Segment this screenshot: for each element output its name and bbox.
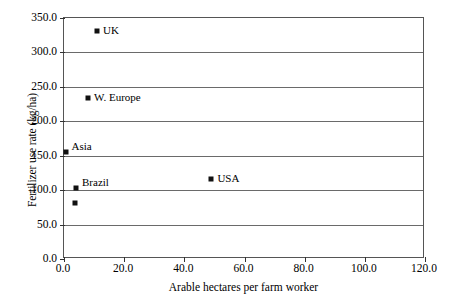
y-axis-tick xyxy=(60,156,65,157)
y-axis-tick xyxy=(60,18,65,19)
x-axis-title: Arable hectares per farm worker xyxy=(63,281,424,293)
y-axis-tick-label: 350.0 xyxy=(31,11,57,23)
data-point-label: UK xyxy=(103,25,119,37)
data-point-marker xyxy=(209,177,214,182)
data-point-label-line: W. Europe xyxy=(94,92,141,104)
y-axis-tick xyxy=(60,87,65,88)
fertilizer-use-scatter-chart: Fertilizer use rate (kg/ha) 0.050.0100.0… xyxy=(0,0,453,306)
data-point-label-line: UK xyxy=(103,25,119,37)
data-point-marker xyxy=(72,200,77,205)
gridline xyxy=(64,156,423,157)
y-axis-tick xyxy=(60,52,65,53)
x-axis-tick-label: 80.0 xyxy=(294,262,314,274)
data-point-label: Asia xyxy=(72,141,92,153)
data-point-label: USA xyxy=(217,173,239,185)
y-axis-tick xyxy=(60,190,65,191)
y-axis-tick-label: 50.0 xyxy=(37,218,57,230)
x-axis-tick-label: 120.0 xyxy=(411,262,437,274)
data-point-marker xyxy=(74,186,79,191)
data-point-label-line: Asia xyxy=(72,141,92,153)
gridline xyxy=(64,87,423,88)
x-axis-tick-label: 60.0 xyxy=(233,262,253,274)
y-axis-tick-label: 200.0 xyxy=(31,114,57,126)
gridline xyxy=(64,190,423,191)
data-point-marker xyxy=(86,95,91,100)
y-axis-tick-label: 100.0 xyxy=(31,183,57,195)
data-point-label: Brazil xyxy=(82,177,109,189)
data-point-label-line: Brazil xyxy=(82,177,109,189)
y-axis-tick-label: 250.0 xyxy=(31,80,57,92)
gridline xyxy=(64,121,423,122)
gridline xyxy=(64,52,423,53)
x-axis-tick-label: 40.0 xyxy=(173,262,193,274)
x-axis-tick-label: 0.0 xyxy=(56,262,70,274)
data-point-marker xyxy=(95,29,100,34)
plot-area: UKW. EuropeAsiaUSABrazil xyxy=(63,17,424,258)
data-point-label-line: USA xyxy=(217,173,239,185)
data-point-marker xyxy=(63,150,68,155)
y-axis-tick-label: 150.0 xyxy=(31,149,57,161)
gridline xyxy=(64,225,423,226)
x-axis-tick-label: 100.0 xyxy=(351,262,377,274)
x-axis-tick-label: 20.0 xyxy=(113,262,133,274)
data-point-label: W. Europe xyxy=(94,92,141,104)
y-axis-tick xyxy=(60,225,65,226)
y-axis-tick xyxy=(60,121,65,122)
y-axis-tick-label: 300.0 xyxy=(31,45,57,57)
